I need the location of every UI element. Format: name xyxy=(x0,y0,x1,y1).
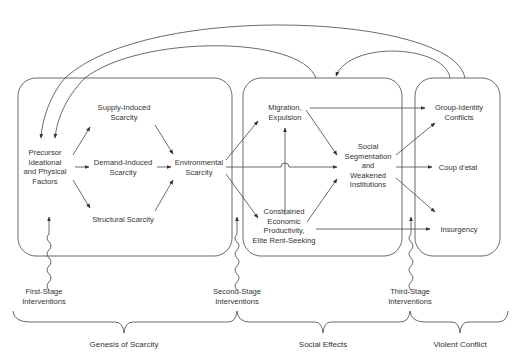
node-social-segmentation: Social Segmentation and Weakened Institu… xyxy=(345,142,392,190)
label-line: Supply-Induced xyxy=(98,103,151,113)
label-line: Demand-Induced xyxy=(94,158,152,168)
label-third-stage-interventions: Third-Stage Interventions xyxy=(388,287,431,306)
label-line: Segmentation xyxy=(345,152,392,162)
node-environmental-scarcity: Environmental Scarcity xyxy=(175,158,224,177)
node-supply-induced-scarcity: Supply-Induced Scarcity xyxy=(98,103,151,122)
label-line: Coup d'etat xyxy=(439,163,478,173)
label-line: Factors xyxy=(23,177,66,187)
brace-social xyxy=(237,311,410,333)
node-precursor-factors: Precursor Ideational and Physical Factor… xyxy=(23,148,66,186)
label-line: Productivity, xyxy=(253,226,316,236)
label-line: Interventions xyxy=(388,297,431,307)
label-line: First-Stage xyxy=(22,287,65,297)
node-demand-induced-scarcity: Demand-Induced Scarcity xyxy=(94,158,152,177)
label-line: Third-Stage xyxy=(388,287,431,297)
label-line: and xyxy=(345,161,392,171)
arrow-env-migration xyxy=(226,121,258,160)
label-line: Insurgency xyxy=(440,225,477,235)
label-line: Second-Stage xyxy=(213,287,261,297)
brace-genesis xyxy=(13,311,237,333)
node-migration-expulsion: Migration, Expulsion xyxy=(268,103,301,122)
node-group-identity-conflicts: Group-Identity Conflicts xyxy=(435,103,483,122)
label-line: Scarcity xyxy=(98,113,151,123)
arrow-precursor-supply xyxy=(73,127,90,155)
node-constrained-productivity: Constrained Economic Productivity, Elite… xyxy=(253,207,316,245)
label-first-stage-interventions: First-Stage Interventions xyxy=(22,287,65,306)
label-second-stage-interventions: Second-Stage Interventions xyxy=(213,287,261,306)
feedback-arc-inner xyxy=(336,51,450,78)
label-line: Constrained xyxy=(253,207,316,217)
label-line: Scarcity xyxy=(175,168,224,178)
arrow-structural-env xyxy=(155,180,173,211)
label-line: Scarcity xyxy=(94,168,152,178)
brace-violent xyxy=(410,311,508,333)
phase-social-effects: Social Effects xyxy=(299,340,347,350)
feedback-arc-mid xyxy=(55,46,316,138)
first-stage-squiggle xyxy=(47,217,51,290)
label-line: Group-Identity xyxy=(435,103,483,113)
label-line: Precursor xyxy=(23,148,66,158)
label-line: Economic xyxy=(253,217,316,227)
second-stage-squiggle xyxy=(235,217,239,290)
label-line: Structural Scarcity xyxy=(92,215,154,225)
phase-genesis-of-scarcity: Genesis of Scarcity xyxy=(90,340,159,350)
arrow-supply-env xyxy=(155,125,173,154)
label-line: Conflicts xyxy=(435,113,483,123)
label-line: and Physical xyxy=(23,167,66,177)
phase-violent-conflict: Violent Conflict xyxy=(433,340,486,350)
arrow-migration-segmentation xyxy=(306,110,337,155)
label-line: Interventions xyxy=(213,297,261,307)
label-line: Migration, xyxy=(268,103,301,113)
label-line: Institutions xyxy=(345,180,392,190)
node-structural-scarcity: Structural Scarcity xyxy=(92,215,154,225)
label-line: Interventions xyxy=(22,297,65,307)
label-line: Expulsion xyxy=(268,113,301,123)
label-line: Weakened xyxy=(345,171,392,181)
node-coup-detat: Coup d'etat xyxy=(439,163,478,173)
third-stage-squiggle xyxy=(409,217,413,290)
node-insurgency: Insurgency xyxy=(440,225,477,235)
label-line: Ideational xyxy=(23,158,66,168)
label-line: Environmental xyxy=(175,158,224,168)
diagram-canvas xyxy=(0,0,522,361)
label-line: Social xyxy=(345,142,392,152)
arrow-precursor-structural xyxy=(73,180,90,208)
label-line: Elite Rent-Seeking xyxy=(253,236,316,246)
